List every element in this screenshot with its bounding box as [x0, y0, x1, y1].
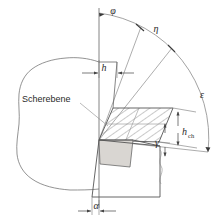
angle-phi-label: φ [110, 5, 116, 16]
chip-region [99, 108, 173, 142]
shear-plane-leader [80, 103, 108, 126]
dim-h-label: h [102, 62, 107, 73]
workpiece-outline [17, 58, 99, 190]
dim-h-ch-base: h [182, 126, 187, 137]
angle-eta-label: η [154, 23, 159, 34]
shear-zone-region [99, 140, 133, 167]
angle-alpha-label: α [93, 200, 99, 211]
shear-plane-label: Scherebene [22, 94, 71, 104]
dim-h-ch-label: h ch [182, 126, 195, 139]
diagram-canvas: h h ch γ α [0, 0, 224, 223]
angle-epsilon-label: ε [200, 89, 204, 100]
dim-h-ch-subscript: ch [188, 132, 195, 139]
diagram-svg: h h ch γ α [0, 0, 224, 223]
